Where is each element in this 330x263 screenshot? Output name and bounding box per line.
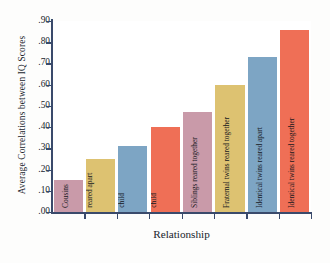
bar-label: Identical twins reared apart xyxy=(248,57,277,212)
x-axis-title: Relationship xyxy=(52,228,311,240)
bar-label-text: Siblingsreared apart xyxy=(86,173,95,208)
bar-6: Fraternal twins reared together xyxy=(215,85,244,212)
bar-label: Biological parent/child xyxy=(151,127,180,212)
bar-label-text: Identical twins reared together xyxy=(288,118,297,208)
y-tick-mark xyxy=(46,212,52,213)
bar-label: Cousins xyxy=(54,180,83,212)
x-tick-mark xyxy=(311,213,312,219)
bar-label: Siblingsreared apart xyxy=(86,159,115,212)
bar-1: Cousins xyxy=(54,180,83,212)
bar-label-text: Biological parent/child xyxy=(151,155,160,208)
bars-container: CousinsSiblingsreared apartFoster parent… xyxy=(52,21,311,212)
x-tick-mark xyxy=(117,213,118,219)
x-tick-mark xyxy=(182,213,183,219)
bar-label-line-2: child xyxy=(118,167,127,208)
y-axis-tick-labels: .90.80.70.60.50.40.30.20.10.00 xyxy=(29,15,50,218)
bar-label-text: Foster parent/child xyxy=(118,167,127,208)
bar-2: Siblingsreared apart xyxy=(86,159,115,212)
x-tick-mark xyxy=(149,213,150,219)
bar-label: Siblings reared together xyxy=(183,112,212,212)
bar-8: Identical twins reared together xyxy=(280,30,309,213)
bar-label: Foster parent/child xyxy=(118,146,147,212)
bar-label-text: Siblings reared together xyxy=(191,137,200,208)
bar-3: Foster parent/child xyxy=(118,146,147,212)
bar-label-text: Identical twins reared apart xyxy=(256,127,265,208)
y-axis-title: Average Correlations between IQ Scores xyxy=(14,16,30,214)
bar-label: Fraternal twins reared together xyxy=(215,85,244,212)
bar-label: Identical twins reared together xyxy=(280,30,309,213)
x-tick-mark xyxy=(279,213,280,219)
bar-label-text: Cousins xyxy=(62,184,71,208)
x-tick-mark xyxy=(214,213,215,219)
bar-label-line-2: reared apart xyxy=(86,173,95,208)
x-tick-mark xyxy=(246,213,247,219)
iq-correlation-bar-chart: Average Correlations between IQ Scores .… xyxy=(0,0,330,263)
bar-7: Identical twins reared apart xyxy=(248,57,277,212)
bar-label-line-2: child xyxy=(151,155,160,208)
y-axis-title-text: Average Correlations between IQ Scores xyxy=(17,36,27,195)
bar-4: Biological parent/child xyxy=(151,127,180,212)
x-tick-mark xyxy=(84,213,85,219)
bar-5: Siblings reared together xyxy=(183,112,212,212)
bar-label-text: Fraternal twins reared together xyxy=(224,117,233,208)
